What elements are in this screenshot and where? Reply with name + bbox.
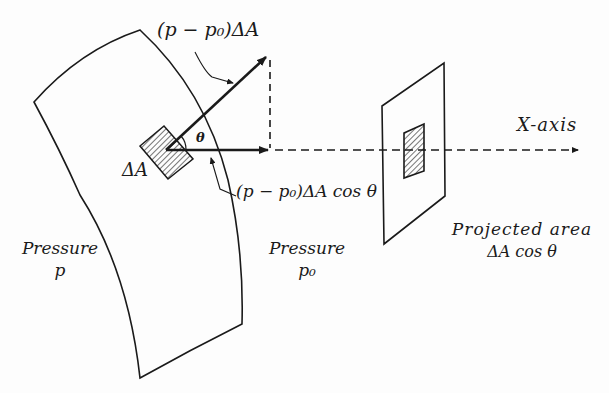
projected-area-title: Projected area	[447, 221, 597, 238]
label-pressure-outside: Pressure p₀	[265, 240, 349, 279]
label-delta-a: ΔA	[122, 161, 148, 179]
projected-area-element	[404, 124, 424, 178]
normal-force-leader	[195, 52, 233, 83]
curved-surface	[34, 30, 242, 378]
label-normal-force: (p − p₀)ΔA	[157, 20, 259, 39]
label-x-axis: X-axis	[517, 116, 577, 134]
projected-area-expr: ΔA cos θ	[447, 244, 597, 260]
label-theta: θ	[196, 131, 205, 144]
pressure-inside-title: Pressure	[18, 240, 102, 257]
label-pressure-inside: Pressure p	[18, 240, 102, 279]
label-x-force: (p − p₀)ΔA cos θ	[236, 183, 377, 200]
label-projected-area: Projected area ΔA cos θ	[447, 221, 597, 260]
pressure-force-diagram: (p − p₀)ΔA θ ΔA (p − p₀)ΔA cos θ Pressur…	[0, 0, 609, 393]
pressure-outside-symbol: p₀	[265, 262, 349, 279]
pressure-inside-symbol: p	[18, 262, 102, 279]
pressure-outside-title: Pressure	[265, 240, 349, 257]
